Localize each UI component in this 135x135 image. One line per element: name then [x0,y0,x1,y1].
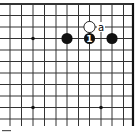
star-point [31,106,35,110]
black-stone [61,33,72,44]
point-labels: a [97,22,105,33]
caption-fragment [2,130,11,131]
go-board-diagram: 1 a [0,0,135,135]
white-stone [84,21,95,32]
move-number: 1 [86,34,92,44]
point-label-a: a [98,22,104,33]
black-stone [106,33,117,44]
board-grid [0,3,133,126]
stones: 1 [61,21,117,44]
star-point [31,37,35,41]
black-stone: 1 [84,33,95,44]
star-point [99,106,103,110]
